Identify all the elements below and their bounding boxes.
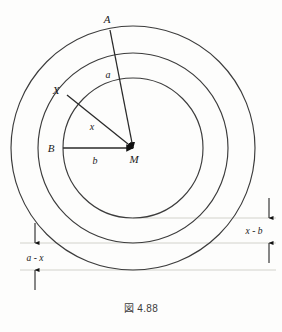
annotation-x-minus-b-label: x - b bbox=[245, 226, 263, 236]
segment-label-b: b bbox=[93, 155, 98, 166]
annotation-x-minus-b: x - b bbox=[245, 198, 269, 263]
annotation-a-minus-x: a - x bbox=[27, 223, 45, 290]
figure-container: A X B M a x b x - b a - x 図 4.88 bbox=[0, 0, 282, 332]
segment-label-x: x bbox=[89, 121, 95, 132]
point-label-x: X bbox=[52, 84, 61, 96]
radius-segment-mx bbox=[67, 95, 133, 148]
figure-caption: 図 4.88 bbox=[0, 300, 282, 315]
radius-segment-ma bbox=[110, 30, 133, 148]
point-label-a: A bbox=[103, 13, 111, 25]
concentric-circles-diagram: A X B M a x b x - b a - x bbox=[0, 0, 282, 332]
segment-label-a: a bbox=[106, 69, 111, 80]
point-label-b: B bbox=[48, 142, 55, 154]
annotation-a-minus-x-label: a - x bbox=[27, 253, 45, 263]
point-label-m: M bbox=[128, 153, 139, 165]
